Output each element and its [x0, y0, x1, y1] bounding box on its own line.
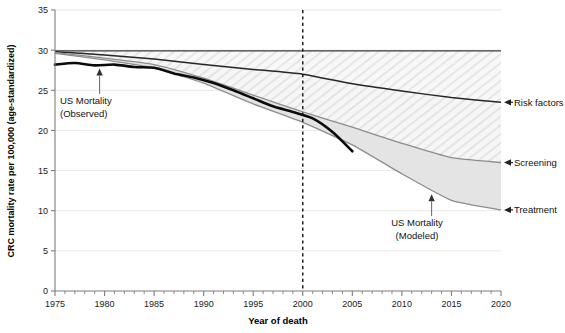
y-tick-label: 30: [38, 46, 48, 56]
modeled-annotation-line2: (Modeled): [396, 230, 439, 241]
y-tick-label: 0: [43, 286, 48, 296]
x-tick-label: 2015: [441, 299, 461, 309]
y-tick-label: 10: [38, 206, 48, 216]
y-tick-label: 20: [38, 126, 48, 136]
x-tick-label: 1980: [95, 299, 115, 309]
y-tick-label: 5: [43, 246, 48, 256]
observed-annotation-line1: US Mortality: [60, 95, 112, 106]
side-label-risk-factors-text: Risk factors: [514, 97, 564, 108]
x-tick-label: 2010: [392, 299, 412, 309]
x-tick-label: 2020: [491, 299, 511, 309]
x-tick-label: 1975: [45, 299, 65, 309]
y-tick-label: 15: [38, 166, 48, 176]
observed-annotation-line2: (Observed): [60, 108, 108, 119]
x-tick-label: 2000: [293, 299, 313, 309]
y-tick-label: 25: [38, 86, 48, 96]
crc-mortality-chart: 1975198019851990199520002005201020152020…: [0, 0, 565, 333]
x-tick-label: 1985: [144, 299, 164, 309]
modeled-annotation-line1: US Mortality: [391, 217, 443, 228]
y-axis-title: CRC mortality rate per 100,000 (age-stan…: [6, 44, 16, 257]
side-label-treatment-text: Treatment: [514, 204, 557, 215]
y-tick-label: 35: [38, 5, 48, 15]
x-axis-title: Year of death: [248, 315, 308, 326]
x-tick-label: 1995: [243, 299, 263, 309]
chart-canvas: 1975198019851990199520002005201020152020…: [0, 0, 565, 333]
x-tick-label: 2005: [342, 299, 362, 309]
side-label-screening-text: Screening: [514, 157, 557, 168]
x-tick-label: 1990: [194, 299, 214, 309]
